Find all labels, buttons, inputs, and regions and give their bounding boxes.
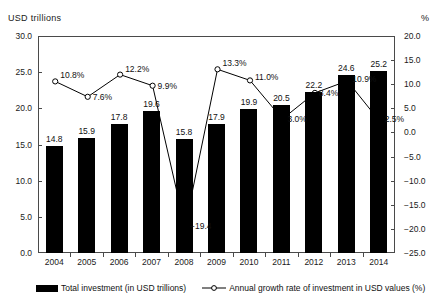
left-tick-label: 15.0 (0, 141, 32, 150)
right-tick-label: −25.0 (404, 249, 438, 258)
x-tick-mark (70, 253, 71, 257)
growth-rate-data-label: 2.5% (385, 115, 404, 124)
x-tick-mark (265, 253, 266, 257)
legend-entry-total-investment: Total investment (in USD trillions) (36, 283, 186, 293)
right-tick-mark (391, 205, 395, 206)
bar (305, 92, 322, 253)
bar-value-label: 15.9 (70, 127, 104, 136)
left-tick-mark (38, 108, 42, 109)
bar-value-label: 17.8 (102, 113, 136, 122)
right-tick-mark (391, 229, 395, 230)
legend-label-total-investment: Total investment (in USD trillions) (61, 283, 186, 293)
left-tick-mark (38, 217, 42, 218)
bar (240, 109, 257, 253)
x-axis-label: 2008 (167, 258, 201, 267)
growth-rate-data-label: 11.0% (255, 73, 278, 82)
left-tick-label: 0.0 (0, 249, 32, 258)
chart-container: USD trillions % 30.025.020.015.010.05.00… (0, 0, 445, 304)
growth-rate-marker (118, 72, 123, 77)
right-axis-unit-label: % (421, 13, 429, 23)
x-axis-label: 2004 (37, 258, 71, 267)
bar-value-label: 20.5 (264, 94, 298, 103)
left-tick-mark (38, 145, 42, 146)
right-tick-mark (391, 181, 395, 182)
x-tick-mark (200, 253, 201, 257)
right-tick-label: −10.0 (404, 177, 438, 186)
bar (46, 146, 63, 253)
bar (111, 124, 128, 253)
x-tick-mark (298, 253, 299, 257)
growth-rate-data-label: 10.9% (352, 75, 376, 84)
x-axis-label: 2009 (200, 258, 234, 267)
growth-rate-marker (150, 83, 155, 88)
x-axis-label: 2010 (232, 258, 266, 267)
right-tick-mark (391, 157, 395, 158)
bar (78, 138, 95, 253)
bar-value-label: 15.8 (167, 128, 201, 137)
growth-rate-data-label: 8.4% (319, 89, 338, 98)
x-axis-label: 2005 (70, 258, 104, 267)
bar-value-label: 14.8 (37, 135, 71, 144)
x-tick-mark (233, 253, 234, 257)
bar-value-label: 24.6 (329, 64, 363, 73)
right-tick-label: −5.0 (404, 153, 438, 162)
left-tick-label: 10.0 (0, 177, 32, 186)
growth-rate-data-label: −19.4 (190, 222, 212, 231)
bar (370, 71, 387, 253)
right-tick-mark (391, 108, 395, 109)
right-tick-mark (391, 84, 395, 85)
right-tick-mark (391, 132, 395, 133)
legend-label-growth-rate: Annual growth rate of investment in USD … (229, 283, 425, 293)
bar-value-label: 19.6 (135, 100, 169, 109)
right-tick-label: 5.0 (404, 104, 438, 113)
x-axis-label: 2007 (135, 258, 169, 267)
legend-line-marker-icon (202, 284, 226, 292)
right-tick-label: 0.0 (404, 128, 438, 137)
right-tick-label: −20.0 (404, 225, 438, 234)
legend-bar-swatch-icon (36, 285, 58, 292)
growth-rate-data-label: 3.0% (287, 115, 306, 124)
growth-rate-marker (53, 79, 58, 84)
growth-rate-data-label: 9.9% (158, 82, 177, 91)
x-axis-label: 2006 (102, 258, 136, 267)
bar (273, 105, 290, 253)
left-tick-label: 25.0 (0, 68, 32, 77)
x-tick-mark (135, 253, 136, 257)
bar-value-label: 25.2 (362, 60, 396, 69)
x-tick-mark (363, 253, 364, 257)
bar-value-label: 19.9 (232, 98, 266, 107)
bar-value-label: 17.9 (200, 113, 234, 122)
right-tick-label: 15.0 (404, 56, 438, 65)
left-tick-label: 20.0 (0, 104, 32, 113)
x-axis-label: 2011 (264, 258, 298, 267)
bar (338, 75, 355, 253)
left-tick-mark (38, 72, 42, 73)
x-tick-mark (330, 253, 331, 257)
growth-rate-marker (247, 78, 252, 83)
left-tick-mark (38, 181, 42, 182)
left-tick-label: 30.0 (0, 32, 32, 41)
growth-rate-marker (85, 94, 90, 99)
growth-rate-data-label: 7.6% (93, 93, 112, 102)
x-tick-mark (168, 253, 169, 257)
growth-rate-data-label: 10.8% (60, 71, 84, 80)
bar (208, 124, 225, 253)
growth-rate-marker (215, 67, 220, 72)
x-axis-label: 2014 (362, 258, 396, 267)
x-tick-mark (103, 253, 104, 257)
chart-legend: Total investment (in USD trillions) Annu… (36, 283, 425, 293)
legend-entry-growth-rate: Annual growth rate of investment in USD … (202, 283, 425, 293)
x-axis-label: 2013 (329, 258, 363, 267)
right-tick-label: −15.0 (404, 201, 438, 210)
right-tick-label: 10.0 (404, 80, 438, 89)
left-tick-label: 5.0 (0, 213, 32, 222)
right-tick-label: 20.0 (404, 32, 438, 41)
growth-rate-data-label: 13.3% (223, 59, 247, 68)
growth-rate-data-label: 12.2% (125, 65, 149, 74)
bar (176, 139, 193, 253)
bar (143, 111, 160, 253)
left-axis-unit-label: USD trillions (8, 13, 61, 23)
x-axis-label: 2012 (297, 258, 331, 267)
